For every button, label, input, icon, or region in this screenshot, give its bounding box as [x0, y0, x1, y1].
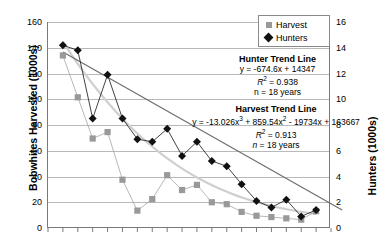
harvest-trend-equation: y = -13.026x3 + 859.54x2 - 19734x + 1636…: [160, 114, 392, 127]
y-tick-right-16: 16: [336, 18, 362, 27]
y-tick-left-120: 120: [16, 70, 42, 79]
data-point-hunters: [89, 115, 97, 123]
data-point-harvest: [90, 135, 96, 141]
y-tick-right-14: 14: [336, 44, 362, 53]
eq-part-2: + 859.54x: [243, 117, 283, 127]
y-tick-left-80: 80: [16, 121, 42, 130]
annotation-harvest-trend: Harvest Trend Line y = -13.026x3 + 859.5…: [160, 104, 392, 150]
eq-part-3: - 19734x + 163667: [286, 117, 360, 127]
diamond-marker-icon: [264, 33, 274, 43]
data-point-harvest: [149, 196, 155, 202]
y-tick-left-100: 100: [16, 95, 42, 104]
data-point-hunters: [104, 71, 112, 79]
legend-label-harvest: Harvest: [276, 20, 307, 30]
chart-container: Bobwhites Harvested (1000s) Hunters (100…: [0, 0, 392, 246]
data-point-harvest: [283, 215, 289, 221]
y-tick-right-2: 2: [336, 198, 362, 207]
legend-item-hunters: Hunters: [262, 31, 326, 44]
data-point-harvest: [104, 129, 110, 135]
data-point-harvest: [164, 172, 170, 178]
data-point-harvest: [119, 177, 125, 183]
data-point-harvest: [75, 94, 81, 100]
harvest-trend-n: n = 18 years: [160, 140, 392, 150]
hunter-trend-title: Hunter Trend Line: [205, 54, 350, 64]
legend-label-hunters: Hunters: [276, 33, 308, 43]
data-point-harvest: [134, 208, 140, 214]
hunter-trend-equation: y = -674.6x + 14347: [205, 64, 350, 74]
data-point-harvest: [194, 182, 200, 188]
hunter-r2-value: = 0.938: [269, 77, 298, 87]
harvest-r2-value: = 0.913: [268, 130, 297, 140]
hunter-trend-n: n = 18 years: [205, 87, 350, 97]
y-tick-left-160: 160: [16, 18, 42, 27]
data-point-harvest: [179, 187, 185, 193]
y-tick-left-40: 40: [16, 173, 42, 182]
data-point-harvest: [224, 201, 230, 207]
data-point-harvest: [60, 52, 66, 58]
data-point-hunters: [74, 46, 82, 54]
harvest-trend-title: Harvest Trend Line: [160, 104, 392, 114]
y-tick-left-140: 140: [16, 44, 42, 53]
chart-legend: Harvest Hunters: [258, 15, 330, 47]
data-point-harvest: [268, 214, 274, 220]
y-tick-right-4: 4: [336, 173, 362, 182]
y-tick-left-0: 0: [16, 224, 42, 233]
harvest-trend-r2: R2 = 0.913: [160, 127, 392, 140]
y-tick-left-20: 20: [16, 198, 42, 207]
data-point-hunters: [208, 157, 216, 165]
annotation-hunter-trend: Hunter Trend Line y = -674.6x + 14347 R2…: [205, 54, 350, 97]
harvest-n-text: = 18 years: [257, 140, 299, 150]
data-point-harvest: [253, 213, 259, 219]
hunter-trend-r2: R2 = 0.938: [205, 74, 350, 87]
data-point-hunters: [59, 41, 67, 49]
y-tick-right-0: 0: [336, 224, 362, 233]
y-tick-left-60: 60: [16, 147, 42, 156]
square-marker-icon: [266, 22, 272, 28]
data-point-harvest: [239, 209, 245, 215]
data-point-harvest: [209, 199, 215, 205]
legend-item-harvest: Harvest: [262, 18, 326, 31]
eq-part-1: y = -13.026x: [192, 117, 239, 127]
